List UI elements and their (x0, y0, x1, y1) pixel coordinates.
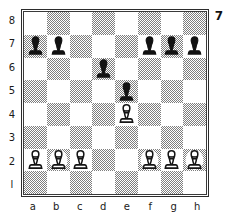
square-f2[interactable] (138, 149, 161, 172)
square-f3[interactable] (138, 126, 161, 149)
square-h6[interactable] (183, 58, 206, 81)
square-b1[interactable] (47, 171, 70, 194)
square-e8[interactable] (115, 12, 138, 35)
square-e5[interactable] (115, 80, 138, 103)
square-e6[interactable] (115, 58, 138, 81)
square-e3[interactable] (115, 126, 138, 149)
white-pawn-icon[interactable] (70, 149, 93, 172)
white-pawn-icon[interactable] (115, 103, 138, 126)
file-label-e: e (115, 198, 139, 215)
square-d7[interactable] (92, 35, 115, 58)
square-c1[interactable] (70, 171, 93, 194)
chess-diagram: 7 8765432l abcdefgh (0, 0, 227, 219)
square-a7[interactable] (24, 35, 47, 58)
black-pawn-icon[interactable] (47, 35, 70, 58)
rank-label-3: 3 (5, 127, 19, 151)
black-pawn-icon[interactable] (24, 35, 47, 58)
rank-label-5: 5 (5, 80, 19, 104)
white-pawn-icon[interactable] (47, 149, 70, 172)
square-g6[interactable] (161, 58, 184, 81)
rank-label-2: 2 (5, 150, 19, 174)
square-h5[interactable] (183, 80, 206, 103)
square-d5[interactable] (92, 80, 115, 103)
square-d8[interactable] (92, 12, 115, 35)
black-pawn-icon[interactable] (92, 58, 115, 81)
square-c5[interactable] (70, 80, 93, 103)
square-e1[interactable] (115, 171, 138, 194)
rank-label-4: 4 (5, 103, 19, 127)
square-d2[interactable] (92, 149, 115, 172)
square-a1[interactable] (24, 171, 47, 194)
square-b8[interactable] (47, 12, 70, 35)
square-a6[interactable] (24, 58, 47, 81)
square-b5[interactable] (47, 80, 70, 103)
square-f7[interactable] (138, 35, 161, 58)
square-a4[interactable] (24, 103, 47, 126)
square-a3[interactable] (24, 126, 47, 149)
rank-coordinate-strip: 8765432l (5, 9, 19, 197)
square-c6[interactable] (70, 58, 93, 81)
square-f8[interactable] (138, 12, 161, 35)
square-h7[interactable] (183, 35, 206, 58)
file-label-b: b (45, 198, 69, 215)
square-b7[interactable] (47, 35, 70, 58)
square-g3[interactable] (161, 126, 184, 149)
black-pawn-icon[interactable] (183, 35, 206, 58)
white-pawn-icon[interactable] (24, 149, 47, 172)
white-pawn-icon[interactable] (161, 149, 184, 172)
square-f6[interactable] (138, 58, 161, 81)
square-a5[interactable] (24, 80, 47, 103)
file-label-g: g (162, 198, 186, 215)
square-e7[interactable] (115, 35, 138, 58)
square-d4[interactable] (92, 103, 115, 126)
square-c8[interactable] (70, 12, 93, 35)
file-coordinate-strip: abcdefgh (21, 198, 209, 215)
square-h8[interactable] (183, 12, 206, 35)
square-c3[interactable] (70, 126, 93, 149)
square-c4[interactable] (70, 103, 93, 126)
square-h3[interactable] (183, 126, 206, 149)
chessboard-frame (21, 9, 209, 197)
white-pawn-icon[interactable] (183, 149, 206, 172)
square-g8[interactable] (161, 12, 184, 35)
rank-label-8: 8 (5, 9, 19, 33)
square-c7[interactable] (70, 35, 93, 58)
square-e4[interactable] (115, 103, 138, 126)
black-pawn-icon[interactable] (161, 35, 184, 58)
square-g5[interactable] (161, 80, 184, 103)
square-h2[interactable] (183, 149, 206, 172)
square-f1[interactable] (138, 171, 161, 194)
square-g7[interactable] (161, 35, 184, 58)
square-b3[interactable] (47, 126, 70, 149)
square-d1[interactable] (92, 171, 115, 194)
square-b2[interactable] (47, 149, 70, 172)
diagram-number: 7 (215, 10, 223, 22)
file-label-h: h (186, 198, 210, 215)
square-a8[interactable] (24, 12, 47, 35)
black-pawn-icon[interactable] (138, 35, 161, 58)
file-label-c: c (68, 198, 92, 215)
square-b4[interactable] (47, 103, 70, 126)
white-pawn-icon[interactable] (138, 149, 161, 172)
square-g1[interactable] (161, 171, 184, 194)
square-d6[interactable] (92, 58, 115, 81)
square-h1[interactable] (183, 171, 206, 194)
square-d3[interactable] (92, 126, 115, 149)
square-e2[interactable] (115, 149, 138, 172)
square-g2[interactable] (161, 149, 184, 172)
square-b6[interactable] (47, 58, 70, 81)
rank-label-6: 6 (5, 56, 19, 80)
square-a2[interactable] (24, 149, 47, 172)
square-h4[interactable] (183, 103, 206, 126)
chessboard[interactable] (23, 11, 207, 195)
file-label-a: a (21, 198, 45, 215)
square-f4[interactable] (138, 103, 161, 126)
rank-label-1: l (5, 174, 19, 198)
file-label-d: d (92, 198, 116, 215)
square-g4[interactable] (161, 103, 184, 126)
rank-label-7: 7 (5, 33, 19, 57)
square-c2[interactable] (70, 149, 93, 172)
square-f5[interactable] (138, 80, 161, 103)
black-pawn-icon[interactable] (115, 80, 138, 103)
file-label-f: f (139, 198, 163, 215)
